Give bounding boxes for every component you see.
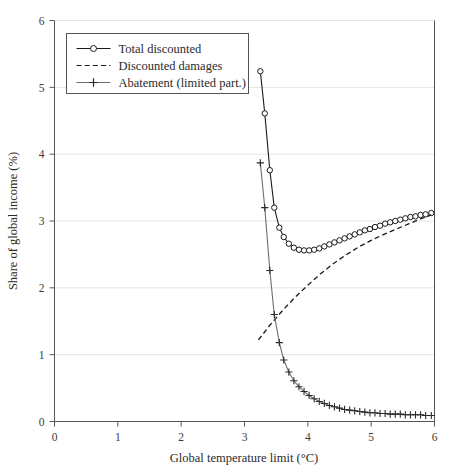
data-point	[387, 220, 392, 225]
y-tick-label-4: 4	[39, 148, 45, 160]
data-point	[296, 247, 301, 252]
x-tick-label-2: 2	[178, 431, 184, 443]
legend-marker-circle-icon	[91, 46, 97, 52]
data-point	[413, 214, 418, 219]
data-point	[403, 216, 408, 221]
x-tick-label-3: 3	[242, 431, 248, 443]
y-tick-label-0: 0	[39, 416, 45, 428]
y-tick-label-6: 6	[39, 15, 45, 27]
data-point	[267, 168, 272, 173]
data-point	[362, 228, 367, 233]
x-tick-label-6: 6	[432, 431, 438, 443]
data-point	[311, 247, 316, 252]
data-point	[398, 217, 403, 222]
data-point	[262, 111, 267, 116]
y-tick-label-3: 3	[39, 215, 45, 227]
data-point	[382, 221, 387, 226]
y-tick-label-2: 2	[39, 282, 45, 294]
x-tick-label-1: 1	[115, 431, 121, 443]
data-point	[258, 69, 263, 74]
y-axis-title: Share of global income (%)	[6, 152, 20, 290]
data-point	[277, 225, 282, 230]
data-point	[272, 205, 277, 210]
data-point	[408, 214, 413, 219]
data-point	[418, 212, 423, 217]
data-point	[393, 218, 398, 223]
data-point	[372, 224, 377, 229]
data-point	[286, 241, 291, 246]
data-point	[281, 234, 286, 239]
data-point	[423, 212, 428, 217]
legend-label: Discounted damages	[119, 59, 223, 73]
x-tick-label-5: 5	[368, 431, 374, 443]
y-tick-label-1: 1	[39, 349, 45, 361]
chart-figure: 0123456 0123456 Total discountedDiscount…	[0, 0, 454, 475]
chart-legend: Total discountedDiscounted damagesAbatem…	[67, 34, 249, 94]
x-tick-label-0: 0	[52, 431, 58, 443]
data-point	[429, 210, 434, 215]
legend-label: Abatement (limited part.)	[119, 76, 246, 90]
legend-label: Total discounted	[119, 42, 203, 56]
data-point	[306, 248, 311, 253]
x-tick-label-4: 4	[305, 431, 311, 443]
chart-canvas: 0123456 0123456 Total discountedDiscount…	[0, 0, 454, 475]
x-axis-title: Global temperature limit (°C)	[170, 451, 318, 465]
y-tick-label-5: 5	[39, 82, 45, 94]
